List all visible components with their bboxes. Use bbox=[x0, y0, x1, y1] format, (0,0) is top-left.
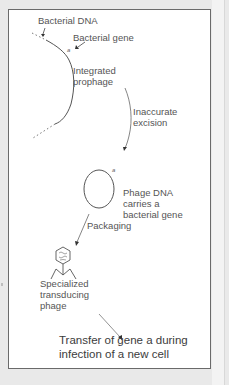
label-transfer-line2: infection of a new cell bbox=[59, 347, 169, 361]
phage-icon bbox=[51, 247, 76, 279]
circle-gene-letter-a: a bbox=[112, 167, 115, 173]
bacterial-dna-dotted-bottom bbox=[33, 124, 55, 138]
label-integrated-prophage-line2: prophage bbox=[73, 76, 113, 87]
label-phage-dna-line2: carries a bbox=[123, 198, 159, 209]
gene-letter-a: a bbox=[67, 47, 70, 53]
arrowhead-icon bbox=[75, 241, 79, 246]
label-bacterial-gene: Bacterial gene bbox=[73, 32, 134, 43]
inaccurate-excision-arrow bbox=[125, 88, 131, 148]
bacterial-dna-pointer bbox=[43, 28, 45, 34]
phage-dna-circle bbox=[84, 170, 114, 208]
label-inaccurate-excision-line2: excision bbox=[133, 117, 167, 128]
label-specialized-line2: transducing bbox=[40, 289, 89, 300]
label-inaccurate-excision-line1: Inaccurate bbox=[133, 106, 177, 117]
scan-artifact bbox=[1, 283, 3, 286]
diagram-drawing bbox=[9, 10, 212, 370]
label-phage-dna-line1: Phage DNA bbox=[123, 187, 173, 198]
page-margin bbox=[212, 0, 225, 385]
label-specialized-line1: Specialized bbox=[40, 278, 89, 289]
arrowhead-icon bbox=[123, 147, 127, 151]
label-integrated-prophage-line1: Integrated bbox=[73, 65, 116, 76]
arrowhead-icon bbox=[41, 34, 45, 37]
label-packaging: Packaging bbox=[87, 220, 131, 231]
label-bacterial-dna: Bacterial DNA bbox=[38, 15, 98, 26]
label-specialized-line3: phage bbox=[40, 300, 66, 311]
label-phage-dna-line3: bacterial gene bbox=[123, 209, 183, 220]
diagram-panel: Bacterial DNA Bacterial gene a Integrate… bbox=[8, 9, 211, 369]
label-transfer-line1: Transfer of gene a during bbox=[59, 333, 188, 347]
